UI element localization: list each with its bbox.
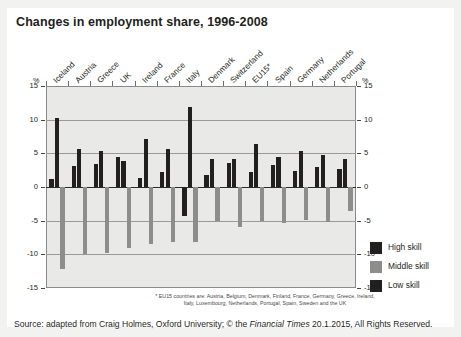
y-tick-label-right--5: -5 [364, 216, 386, 225]
y-tick-label-left-0: 0 [16, 182, 38, 191]
bar-low-skill-italy [182, 187, 186, 216]
legend-swatch-icon-low-skill [370, 280, 382, 292]
chart-legend: High skillMiddle skillLow skill [370, 240, 458, 297]
bar-high-skill-iceland [55, 118, 59, 187]
footnote-text: * EU15 countries are: Austria, Belgium, … [150, 293, 380, 307]
legend-swatch-icon-high-skill [370, 242, 382, 254]
legend-item-low-skill: Low skill [370, 278, 458, 297]
bar-high-skill-portugal [343, 159, 347, 187]
y-tick-mark-left--10 [41, 254, 45, 255]
bar-middle-skill-austria [83, 187, 87, 254]
page-title: Changes in employment share, 1996-2008 [16, 15, 268, 29]
bar-high-skill-ireland [144, 139, 148, 187]
y-tick-label-left--5: -5 [16, 216, 38, 225]
bar-low-skill-iceland [49, 179, 53, 187]
y-tick-mark-left-15 [41, 86, 45, 87]
source-line: Source: adapted from Craig Holmes, Oxfor… [14, 319, 432, 329]
bar-middle-skill-ireland [149, 187, 153, 244]
bar-low-skill-eu15 [249, 172, 253, 187]
legend-item-middle-skill: Middle skill [370, 259, 458, 278]
y-tick-mark-right--15 [357, 288, 361, 289]
bar-middle-skill-eu15 [260, 187, 264, 221]
y-tick-mark-left--15 [41, 288, 45, 289]
y-tick-label-right-10: 10 [364, 115, 386, 124]
y-tick-mark-left-5 [41, 153, 45, 154]
y-tick-label-left--15: -15 [16, 283, 38, 292]
bar-middle-skill-portugal [348, 187, 352, 211]
y-tick-label-left-10: 10 [16, 115, 38, 124]
plot-area [46, 86, 356, 288]
bar-high-skill-netherlands [321, 155, 325, 187]
bar-low-skill-germany [293, 171, 297, 187]
bar-middle-skill-iceland [60, 187, 64, 269]
bar-low-skill-austria [72, 166, 76, 187]
bar-high-skill-france [166, 149, 170, 187]
bar-middle-skill-denmark [215, 187, 219, 221]
bar-low-skill-france [160, 172, 164, 187]
legend-label: Middle skill [388, 261, 429, 271]
bar-high-skill-denmark [210, 159, 214, 187]
bar-high-skill-germany [299, 151, 303, 187]
source-prefix: Source: adapted from Craig Holmes, Oxfor… [14, 319, 250, 329]
bar-low-skill-uk [116, 157, 120, 187]
legend-label: Low skill [388, 280, 420, 290]
page-border-top [0, 0, 461, 8]
y-tick-mark-right--10 [357, 254, 361, 255]
y-tick-mark-right-0 [357, 187, 361, 188]
bar-middle-skill-switzerland [238, 187, 242, 227]
bar-low-skill-ireland [138, 178, 142, 187]
legend-label: High skill [388, 242, 422, 252]
y-axis-unit-left: % [33, 76, 39, 85]
y-tick-label-left--10: -10 [16, 249, 38, 258]
bar-low-skill-greece [94, 164, 98, 187]
bar-high-skill-spain [276, 157, 280, 187]
legend-item-high-skill: High skill [370, 240, 458, 259]
y-tick-mark-left-10 [41, 120, 45, 121]
bar-high-skill-greece [99, 151, 103, 187]
bar-low-skill-denmark [204, 175, 208, 187]
y-axis-unit-right: % [362, 76, 368, 85]
y-tick-label-left-5: 5 [16, 148, 38, 157]
bar-middle-skill-uk [127, 187, 131, 248]
bar-middle-skill-italy [193, 187, 197, 242]
y-tick-label-right-0: 0 [364, 182, 386, 191]
bar-high-skill-eu15 [254, 144, 258, 187]
bar-low-skill-netherlands [315, 167, 319, 187]
page-border-left [0, 0, 7, 337]
bar-low-skill-switzerland [227, 163, 231, 187]
y-tick-mark-right--5 [357, 221, 361, 222]
y-tick-mark-right-5 [357, 153, 361, 154]
y-tick-mark-left-0 [41, 187, 45, 188]
y-tick-mark-left--5 [41, 221, 45, 222]
bar-high-skill-uk [121, 161, 125, 187]
y-tick-label-right-5: 5 [364, 148, 386, 157]
y-tick-mark-right-15 [357, 86, 361, 87]
bar-high-skill-italy [188, 107, 192, 187]
bar-middle-skill-spain [282, 187, 286, 223]
source-suffix: 20.1.2015, All Rights Reserved. [310, 319, 433, 329]
y-tick-mark-right-10 [357, 120, 361, 121]
bar-high-skill-switzerland [232, 159, 236, 187]
bar-middle-skill-france [171, 187, 175, 242]
bar-middle-skill-germany [304, 187, 308, 220]
bar-low-skill-portugal [337, 169, 341, 187]
bar-series-container [46, 86, 356, 288]
bar-middle-skill-greece [105, 187, 109, 253]
chart-page: Changes in employment share, 1996-2008 I… [0, 0, 461, 337]
bar-high-skill-austria [77, 149, 81, 187]
source-publication: Financial Times [250, 319, 310, 329]
legend-swatch-icon-middle-skill [370, 261, 382, 273]
bar-middle-skill-netherlands [326, 187, 330, 222]
bar-low-skill-spain [271, 165, 275, 187]
